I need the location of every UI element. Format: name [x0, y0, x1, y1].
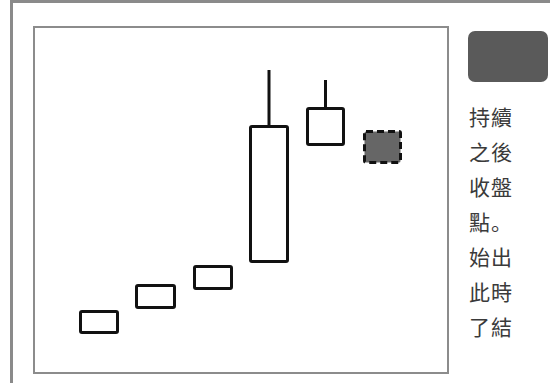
text-line: 持續 [469, 101, 529, 136]
candle-4 [251, 70, 288, 262]
candle-3 [195, 267, 232, 289]
candle-body [81, 312, 118, 333]
section-heading-badge [468, 31, 548, 82]
side-text-column: 持續 之後 收盤 點。 始出 此時 了結 [469, 101, 529, 346]
candle-5 [308, 80, 344, 145]
text-line: 此時 [469, 276, 529, 311]
text-line: 點。 [469, 206, 529, 241]
text-line: 始出 [469, 241, 529, 276]
candle-body [251, 127, 288, 262]
candle-body [195, 267, 232, 289]
text-line: 之後 [469, 136, 529, 171]
text-line: 收盤 [469, 171, 529, 206]
candle-1 [81, 312, 118, 333]
candle-body [137, 286, 175, 308]
candle-2 [137, 286, 175, 308]
candle-body [308, 109, 344, 145]
candle-body [365, 132, 401, 163]
candle-6 [365, 132, 401, 163]
text-line: 了結 [469, 311, 529, 346]
